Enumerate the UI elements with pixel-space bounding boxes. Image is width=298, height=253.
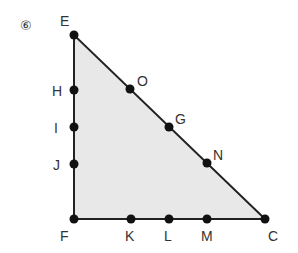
point-f-dot bbox=[70, 215, 79, 224]
point-l-label: L bbox=[164, 228, 172, 244]
point-n-label: N bbox=[213, 147, 223, 163]
point-i-dot bbox=[70, 123, 79, 132]
point-c-label: C bbox=[268, 228, 278, 244]
point-g-dot bbox=[165, 123, 174, 132]
problem-number: ⑥ bbox=[20, 18, 32, 33]
point-l-dot bbox=[165, 215, 174, 224]
point-g-label: G bbox=[175, 111, 186, 127]
point-j-dot bbox=[70, 160, 79, 169]
point-i-label: I bbox=[54, 120, 58, 136]
point-k-label: K bbox=[125, 228, 135, 244]
point-h-label: H bbox=[52, 83, 62, 99]
point-e-dot bbox=[70, 31, 79, 40]
point-j-label: J bbox=[53, 157, 60, 173]
point-h-dot bbox=[70, 86, 79, 95]
point-n-dot bbox=[203, 159, 212, 168]
point-o-label: O bbox=[137, 73, 148, 89]
point-f-label: F bbox=[60, 228, 69, 244]
point-e-label: E bbox=[60, 13, 69, 29]
point-o-dot bbox=[126, 85, 135, 94]
triangle-diagram: ⑥ EHIJFOGNCKLM bbox=[0, 0, 298, 253]
point-k-dot bbox=[127, 215, 136, 224]
point-m-label: M bbox=[201, 228, 213, 244]
point-c-dot bbox=[261, 215, 270, 224]
point-m-dot bbox=[203, 215, 212, 224]
